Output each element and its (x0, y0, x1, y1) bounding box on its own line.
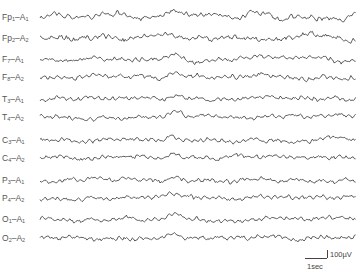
channel-label: C4–A2 (2, 153, 25, 165)
eeg-trace (40, 72, 356, 82)
eeg-trace (40, 31, 356, 43)
scale-bar-time-line (305, 258, 327, 259)
channel-label: P3–A1 (2, 175, 24, 187)
eeg-trace (40, 233, 356, 242)
channel-label: Fp1–A1 (2, 12, 28, 24)
scale-bar-amplitude-label: 100µV (330, 250, 352, 259)
channel-label: C3–A1 (2, 135, 25, 147)
eeg-trace (40, 10, 356, 22)
channel-label: O1–A1 (2, 214, 25, 226)
scale-bar-amplitude-line (327, 250, 328, 258)
channel-label: F8–A2 (2, 72, 24, 84)
eeg-trace (40, 95, 356, 102)
eeg-trace (40, 176, 356, 184)
eeg-trace (40, 53, 356, 65)
channel-label: T3–A1 (2, 94, 24, 106)
channel-label: Fp2–A2 (2, 33, 28, 45)
channel-label: O2–A2 (2, 233, 25, 245)
scale-bar-time-label: 1sec (307, 262, 323, 271)
channel-label: T4–A2 (2, 112, 24, 124)
eeg-trace (40, 192, 356, 202)
eeg-trace (40, 135, 356, 144)
eeg-trace (40, 153, 356, 160)
eeg-traces (0, 0, 364, 277)
eeg-trace (40, 110, 356, 121)
channel-label: F7–A1 (2, 54, 24, 66)
channel-label: P4–A2 (2, 193, 24, 205)
eeg-trace (40, 213, 356, 223)
